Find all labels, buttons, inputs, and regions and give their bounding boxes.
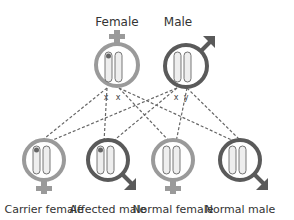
male-parent-label: Male [164,15,192,29]
offspring-affected-male [88,140,136,190]
offspring-normal-female [153,140,193,194]
offspring-label-normal-male: Normal male [205,203,276,216]
offspring-carrier-female [24,140,64,194]
mutation-marker [106,54,111,59]
chromosome-x [115,52,122,82]
offspring-normal-male [220,140,268,190]
inheritance-lines [40,88,242,142]
male-allele-1: x [174,93,179,102]
female-parent-label: Female [95,15,138,29]
female-allele-2: x [116,93,121,102]
male-parent-symbol [165,36,215,87]
chromosome-y [184,52,191,82]
male-allele-2: y [184,93,189,102]
inheritance-diagram [0,0,294,220]
chromosome-x [174,52,181,82]
female-allele-1: x [104,93,109,102]
female-parent-symbol [96,30,138,86]
offspring-label-normal-female: Normal female [132,203,213,216]
